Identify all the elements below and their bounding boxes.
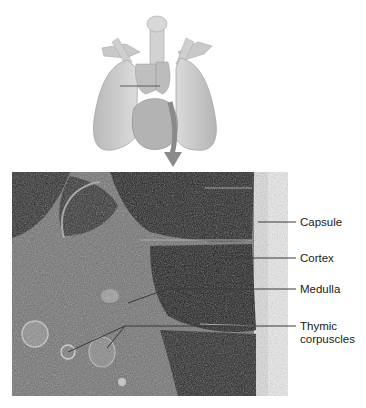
figure-graphics [0,0,366,408]
label-cortex: Cortex [300,252,334,265]
label-thymic-corpuscles: Thymic corpuscles [300,320,355,346]
arrow-head-icon [164,152,182,167]
label-thymic-line2: corpuscles [300,333,355,346]
thymus-micrograph [12,172,288,396]
thorax-illustration [94,16,217,167]
label-capsule: Capsule [300,216,342,229]
figure: Capsule Cortex Medulla Thymic corpuscles [0,0,366,408]
label-medulla: Medulla [300,283,340,296]
label-thymic-line1: Thymic [300,320,355,333]
